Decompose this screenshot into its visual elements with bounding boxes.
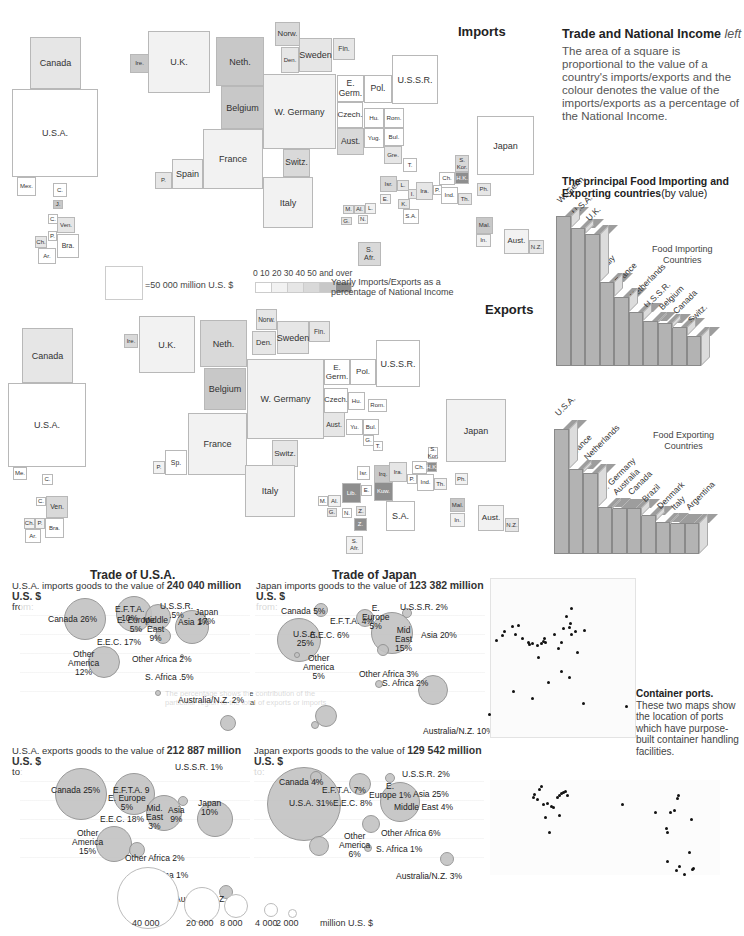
country-square: S.A. (386, 501, 415, 531)
container-port-dot (495, 639, 498, 642)
container-port-dot (568, 676, 571, 679)
region-label: E.E.C. 8% (333, 799, 372, 808)
container-port-dot (514, 633, 517, 636)
fe-label-1: Food Exporting (653, 430, 714, 441)
food-bar (600, 282, 615, 366)
circle-legend-unit: million U.S. $ (320, 918, 373, 928)
region-label: Other America 12% (68, 650, 99, 677)
country-square: Czech. (337, 102, 363, 128)
region-label: Japan 10% (198, 799, 221, 817)
region-label: Asia 20% (421, 631, 457, 640)
country-square: Bul. (363, 419, 379, 435)
trade-income-description: The area of a square is proportional to … (562, 45, 742, 123)
exports-heading: Exports (485, 302, 533, 317)
fi-label-1: Food Importing (652, 244, 713, 255)
food-bar (556, 216, 571, 366)
container-port-dot (557, 647, 560, 650)
region-label: Canada 25% (51, 786, 100, 795)
region-label: Other Africa 6% (381, 829, 441, 838)
country-square: Sweden (277, 321, 309, 354)
country-square: G. (327, 508, 337, 517)
country-square: Mal. (450, 498, 465, 512)
food-exporting-label: Food Exporting Countries (653, 430, 714, 452)
container-port-dot (537, 656, 540, 659)
usa-imports-value: 240 040 (167, 579, 205, 591)
country-square: Italy (263, 177, 313, 228)
color-scale-caption: Yearly Imports/Exports as a percentage o… (331, 278, 454, 297)
region-label: S. Africa 1% (376, 845, 422, 854)
food-bar (571, 228, 586, 366)
japan-exports-value: 129 542 (407, 744, 445, 756)
country-square: Aust. (323, 412, 345, 437)
region-label: E.E.C. 6% (310, 631, 349, 640)
container-port-dot (570, 633, 573, 636)
region-label: Other America 15% (72, 829, 103, 856)
region-label: Mid. East 3% (146, 804, 163, 831)
country-square: Ph. (477, 183, 491, 196)
legend-circle-value: 2 000 (276, 918, 299, 928)
region-label: E. Europe 5% (362, 604, 389, 631)
caption-line-2: percentage of National Income (331, 288, 454, 298)
country-square: Me. (13, 467, 27, 480)
country-square: Aust. (478, 505, 504, 531)
region-bubble (377, 644, 389, 656)
food-bar (629, 312, 644, 366)
country-square: E. (380, 194, 391, 204)
scale-square (105, 266, 143, 300)
container-port-dot (676, 797, 679, 800)
country-square: S. Afr. (358, 242, 381, 266)
container-port-dot (675, 869, 678, 872)
country-square: G. (341, 217, 352, 225)
container-port-dot (536, 798, 539, 801)
country-square: T. (373, 441, 383, 451)
container-port-dot (512, 690, 515, 693)
bar-side-face (569, 420, 578, 469)
region-label: Canada 5% (281, 607, 325, 616)
imports-heading: Imports (458, 24, 506, 39)
country-square: Ind. (417, 474, 434, 491)
country-square: P. (155, 172, 172, 189)
country-square: Ch. (412, 461, 427, 474)
food-bar (583, 473, 598, 554)
food-bar (641, 515, 656, 554)
region-label: U.S.A. 31% (289, 799, 333, 808)
container-port-dot (673, 809, 676, 812)
region-label: Other Africa 2% (125, 854, 185, 863)
region-label: Middle East 4% (394, 803, 453, 812)
container-port-dot (690, 818, 693, 821)
food-bar (612, 508, 627, 554)
container-port-dot (688, 851, 691, 854)
country-square: Den. (281, 47, 299, 73)
container-port-dot (533, 793, 536, 796)
region-label: Australia/N.Z. 10% (423, 727, 494, 736)
country-square: Bra. (45, 518, 64, 538)
container-port-dot (553, 633, 556, 636)
container-port-dot (531, 697, 534, 700)
country-square: M. (318, 496, 328, 506)
legend-circle-value: 4 000 (255, 918, 278, 928)
region-label: U.S.S.R. 2% (400, 603, 448, 612)
country-square: Ph. (455, 473, 468, 485)
country-square: Rom. (368, 399, 387, 412)
country-square: In. (450, 513, 465, 527)
container-port-dot (669, 811, 672, 814)
country-square: E. Germ. (324, 359, 350, 385)
country-square: U.S.A. (8, 383, 86, 467)
country-square: Switz. (272, 440, 298, 467)
container-port-dot (531, 642, 534, 645)
container-port-dot (654, 811, 657, 814)
country-square: Al. (354, 205, 365, 214)
country-square: Ire. (130, 54, 149, 73)
country-square: Aust. (504, 229, 529, 254)
fe-label-2: Countries (653, 441, 714, 452)
japan-imports-value: 123 382 (409, 579, 447, 591)
country-square: Ira. (416, 182, 433, 200)
color-swatch (255, 282, 272, 293)
container-port-dot (677, 794, 680, 797)
container-port-dot (568, 626, 571, 629)
region-label: Mid East 15% (395, 626, 412, 653)
scale-label: =50 000 million U.S. $ (145, 280, 233, 290)
country-square: U.K. (139, 316, 195, 373)
country-square: S. Kor. (428, 447, 438, 459)
food-bar (670, 523, 685, 554)
